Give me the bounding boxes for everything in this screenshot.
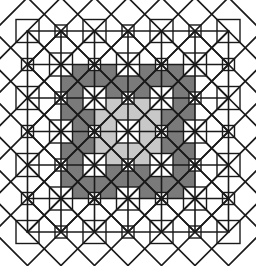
geometric-pattern-canvas: [0, 0, 256, 266]
pattern-figure: [0, 0, 256, 266]
